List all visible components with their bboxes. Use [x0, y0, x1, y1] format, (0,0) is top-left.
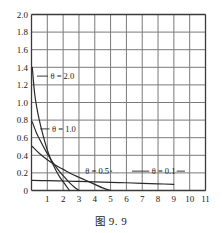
x-tick-label: 9: [172, 194, 177, 204]
y-tick-label: 1.2: [17, 80, 28, 90]
y-tick-label: 1.8: [17, 27, 29, 37]
x-tick-label: 4: [93, 194, 98, 204]
x-tick-label: 8: [156, 194, 161, 204]
x-tick-label: 10: [185, 194, 195, 204]
y-tick-label: 0.2: [17, 168, 28, 178]
x-tick-label: 6: [124, 194, 129, 204]
annotation-0-1: θ = 0.1: [152, 166, 176, 176]
x-tick-label: 1: [45, 194, 50, 204]
x-tick-label: 5: [108, 194, 113, 204]
annotation-2-0: θ = 2.0: [50, 71, 74, 81]
exponential-density-chart: 00.20.40.60.81.01.21.41.61.82.0 12345678…: [0, 0, 222, 233]
y-tick-label: 1.4: [17, 63, 29, 73]
figure-container: 00.20.40.60.81.01.21.41.61.82.0 12345678…: [0, 0, 222, 233]
y-tick-label: 1.6: [17, 45, 29, 55]
y-tick-label: 0.8: [17, 115, 29, 125]
y-tick-label: 0: [24, 186, 29, 196]
annotation-1-0: θ = 1.0: [52, 124, 76, 134]
y-tick-label: 0.4: [17, 151, 29, 161]
caption-number: 9. 9: [109, 215, 128, 227]
x-tick-label: 3: [77, 194, 82, 204]
figure-caption: 图 9. 9: [0, 213, 222, 228]
x-tick-label: 11: [201, 194, 210, 204]
x-tick-label: 7: [140, 194, 145, 204]
caption-prefix: 图: [95, 215, 106, 227]
annotation-0-5: θ = 0.5: [85, 166, 109, 176]
y-tick-label: 1.0: [17, 98, 29, 108]
y-tick-label: 0.6: [17, 133, 29, 143]
y-tick-label: 2.0: [17, 10, 29, 20]
x-tick-label: 2: [61, 194, 66, 204]
